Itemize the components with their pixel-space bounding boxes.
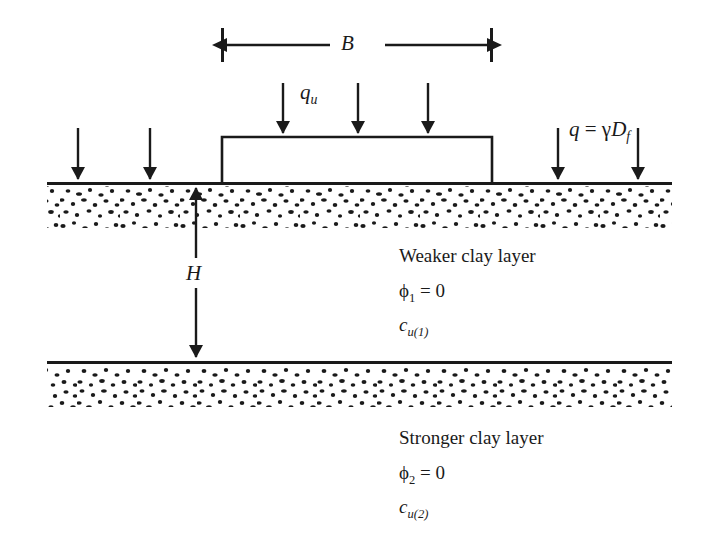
label-cu2: cu(2) xyxy=(399,497,428,520)
stronger-clay-stipple xyxy=(47,366,672,407)
surcharge-arrows-left xyxy=(78,128,150,179)
label-surcharge: q = γDf xyxy=(569,119,630,144)
label-weaker-clay-layer: Weaker clay layer xyxy=(399,246,536,265)
label-phi1-value: = 0 xyxy=(415,280,445,301)
label-phi2-value: = 0 xyxy=(415,462,445,483)
label-phi1: ϕ1 = 0 xyxy=(399,281,445,304)
figure-container: B qu q = γDf H Weaker clay layer ϕ1 = 0 … xyxy=(0,0,720,533)
label-qu-base: q xyxy=(300,80,311,104)
diagram-svg xyxy=(0,0,720,533)
label-cu1-subscript: u(1) xyxy=(407,325,428,339)
label-phi2: ϕ2 = 0 xyxy=(399,463,445,486)
label-stronger-clay-layer: Stronger clay layer xyxy=(399,428,544,447)
label-phi2-symbol: ϕ xyxy=(399,462,409,483)
label-depth-H: H xyxy=(186,263,201,284)
dimension-B xyxy=(223,28,492,62)
label-cu2-subscript: u(2) xyxy=(407,507,428,521)
label-surcharge-D: D xyxy=(611,117,626,141)
label-qu-subscript: u xyxy=(311,92,318,107)
label-width-B: B xyxy=(341,33,354,54)
label-surcharge-q: q xyxy=(569,117,580,141)
label-surcharge-D-subscript: f xyxy=(626,129,630,144)
label-cu1: cu(1) xyxy=(399,315,428,338)
label-phi1-symbol: ϕ xyxy=(399,280,409,301)
weaker-clay-stipple xyxy=(47,186,672,228)
label-surcharge-equals: = xyxy=(580,117,602,141)
label-ultimate-load: qu xyxy=(300,82,317,107)
label-surcharge-gamma: γ xyxy=(602,117,611,141)
foundation-block xyxy=(222,137,492,183)
